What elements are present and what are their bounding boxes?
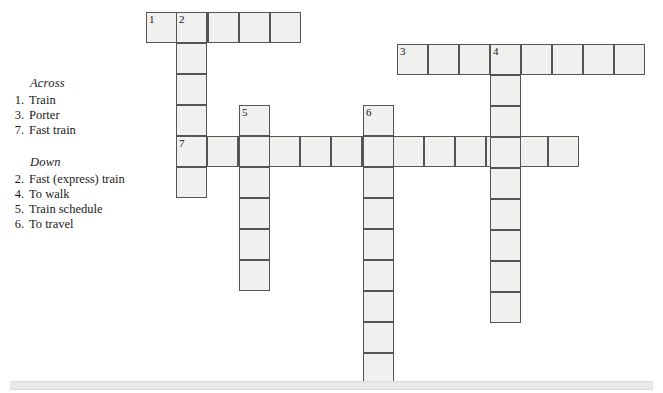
grid-cell[interactable]: [363, 353, 394, 384]
grid-cell-6[interactable]: 6: [363, 105, 394, 136]
grid-cell[interactable]: [331, 136, 362, 167]
grid-cell-7[interactable]: 7: [176, 136, 207, 167]
grid-cell[interactable]: [393, 136, 424, 167]
grid-cell[interactable]: [239, 167, 270, 198]
clue-number: 1.: [8, 93, 24, 108]
across-heading: Across: [30, 76, 150, 91]
grid-cell[interactable]: [455, 136, 486, 167]
grid-cell[interactable]: [583, 44, 614, 75]
grid-cell[interactable]: [363, 322, 394, 353]
clue-number: 7.: [8, 123, 24, 138]
clue-text: To walk: [29, 187, 69, 201]
grid-cell[interactable]: [490, 230, 521, 261]
grid-cell[interactable]: [207, 136, 238, 167]
grid-cell-number: 2: [179, 13, 185, 26]
grid-cell[interactable]: [300, 136, 331, 167]
grid-cell-5[interactable]: 5: [239, 105, 270, 136]
across-clue-list: 1.Train 3.Porter 7.Fast train: [0, 93, 150, 139]
grid-cell-1[interactable]: 1: [146, 12, 177, 43]
grid-cell[interactable]: [239, 136, 270, 167]
grid-cell[interactable]: [239, 198, 270, 229]
grid-cell-number: 5: [242, 106, 248, 119]
grid-cell-number: 6: [366, 106, 372, 119]
grid-cell[interactable]: [424, 136, 455, 167]
clue-number: 3.: [8, 108, 24, 123]
clue-number: 4.: [8, 187, 24, 202]
grid-cell[interactable]: [490, 137, 521, 168]
page-footer-rule: [10, 381, 653, 390]
down-heading: Down: [30, 155, 150, 170]
grid-cell[interactable]: [490, 261, 521, 292]
grid-cell-number: 1: [149, 13, 155, 26]
grid-cell-number: 3: [400, 45, 406, 58]
grid-cell[interactable]: [521, 44, 552, 75]
grid-cell[interactable]: [176, 167, 207, 198]
grid-cell[interactable]: [176, 43, 207, 74]
clue-item-across-3[interactable]: 3.Porter: [8, 108, 150, 123]
grid-cell[interactable]: [239, 260, 270, 291]
grid-cell[interactable]: [428, 44, 459, 75]
grid-cell[interactable]: [614, 44, 645, 75]
grid-cell[interactable]: [490, 106, 521, 137]
grid-cell[interactable]: [363, 198, 394, 229]
grid-cell[interactable]: [270, 12, 301, 43]
clue-text: To travel: [29, 217, 74, 231]
grid-cell-4[interactable]: 4: [490, 44, 521, 75]
clue-number: 6.: [8, 217, 24, 232]
grid-cell[interactable]: [490, 292, 521, 323]
grid-cell[interactable]: [176, 74, 207, 105]
grid-cell[interactable]: [176, 105, 207, 136]
clue-text: Train schedule: [29, 202, 103, 216]
clue-item-across-7[interactable]: 7.Fast train: [8, 123, 150, 138]
grid-cell-3[interactable]: 3: [397, 44, 428, 75]
grid-cell[interactable]: [548, 136, 579, 167]
clue-text: Porter: [29, 108, 60, 122]
grid-cell-number: 7: [179, 137, 185, 150]
grid-cell[interactable]: [269, 136, 300, 167]
grid-cell[interactable]: [490, 199, 521, 230]
grid-cell[interactable]: [363, 291, 394, 322]
grid-cell[interactable]: [552, 44, 583, 75]
clue-number: 5.: [8, 202, 24, 217]
clue-number: 2.: [8, 172, 24, 187]
grid-cell-number: 4: [493, 45, 499, 58]
clue-item-down-6[interactable]: 6.To travel: [8, 217, 150, 232]
clue-text: Fast train: [29, 123, 76, 137]
grid-cell[interactable]: [490, 168, 521, 199]
grid-cell[interactable]: [517, 136, 548, 167]
grid-cell[interactable]: [239, 229, 270, 260]
clues-panel: Across 1.Train 3.Porter 7.Fast train Dow…: [0, 76, 150, 232]
down-clue-list: 2.Fast (express) train 4.To walk 5.Train…: [0, 172, 150, 233]
clue-group-spacer: [0, 139, 150, 155]
grid-cell-2[interactable]: 2: [176, 12, 207, 43]
clue-item-down-4[interactable]: 4.To walk: [8, 187, 150, 202]
clue-item-across-1[interactable]: 1.Train: [8, 93, 150, 108]
clue-text: Train: [29, 93, 56, 107]
clue-item-down-5[interactable]: 5.Train schedule: [8, 202, 150, 217]
grid-cell[interactable]: [363, 260, 394, 291]
clue-item-down-2[interactable]: 2.Fast (express) train: [8, 172, 150, 187]
grid-cell[interactable]: [363, 229, 394, 260]
grid-cell[interactable]: [490, 75, 521, 106]
grid-cell[interactable]: [239, 12, 270, 43]
clue-text: Fast (express) train: [29, 172, 125, 186]
grid-cell[interactable]: [459, 44, 490, 75]
grid-cell[interactable]: [208, 12, 239, 43]
grid-cell[interactable]: [363, 136, 394, 167]
grid-cell[interactable]: [363, 167, 394, 198]
